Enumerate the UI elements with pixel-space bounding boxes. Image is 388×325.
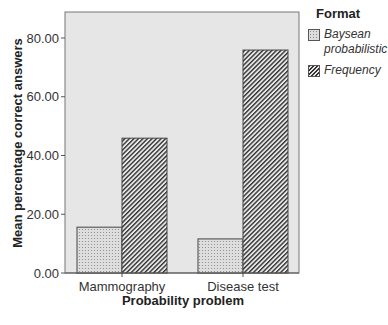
bar-baysean-disease xyxy=(198,239,243,273)
hatched-pattern-icon xyxy=(308,65,320,77)
y-axis-title: Mean percentage correct answers xyxy=(10,38,25,248)
legend: Format Bayseanprobabilistic Frequency xyxy=(308,6,388,84)
x-category-label: Mammography xyxy=(79,279,166,294)
legend-title: Format xyxy=(316,6,388,21)
y-tick-label: 0.00 xyxy=(34,266,59,281)
bar-frequency-disease xyxy=(243,50,288,273)
bar-baysean-mammography xyxy=(77,227,122,273)
y-tick-label: 40.00 xyxy=(26,148,59,163)
x-axis: MammographyDisease test xyxy=(65,273,299,294)
y-axis: 0.0020.0040.0060.0080.00 xyxy=(26,31,65,281)
legend-item-baysean: Bayseanprobabilistic xyxy=(308,27,388,57)
y-tick-label: 60.00 xyxy=(26,89,59,104)
x-category-label: Disease test xyxy=(207,279,279,294)
y-tick-label: 20.00 xyxy=(26,207,59,222)
legend-item-frequency: Frequency xyxy=(308,63,388,78)
x-axis-title: Probability problem xyxy=(122,293,244,308)
dotted-pattern-icon xyxy=(308,29,320,41)
y-tick-label: 80.00 xyxy=(26,31,59,46)
bar-frequency-mammography xyxy=(122,138,167,273)
